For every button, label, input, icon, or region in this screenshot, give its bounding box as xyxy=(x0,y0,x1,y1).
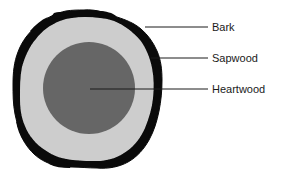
label-heartwood: Heartwood xyxy=(212,83,265,95)
tree-cross-section-diagram: Bark Sapwood Heartwood xyxy=(0,0,291,180)
label-sapwood: Sapwood xyxy=(212,52,258,64)
label-bark: Bark xyxy=(212,21,235,33)
heartwood-core xyxy=(43,42,135,134)
